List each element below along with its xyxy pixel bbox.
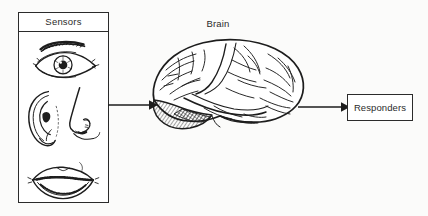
arrow-brain-to-responders <box>298 100 350 114</box>
brain-icon <box>148 36 308 146</box>
responders-box: Responders <box>347 94 413 121</box>
ear-nose-icon <box>19 84 108 154</box>
sensors-panel-body <box>19 32 108 202</box>
sensors-panel-header: Sensors <box>19 13 108 32</box>
sensors-panel: Sensors <box>18 12 109 203</box>
diagram-canvas: Sensors <box>0 0 428 216</box>
eye-icon <box>19 36 108 86</box>
sensors-panel-title: Sensors <box>45 17 81 27</box>
responders-label: Responders <box>354 103 406 113</box>
brain-label: Brain <box>186 18 250 29</box>
mouth-icon <box>19 156 108 208</box>
